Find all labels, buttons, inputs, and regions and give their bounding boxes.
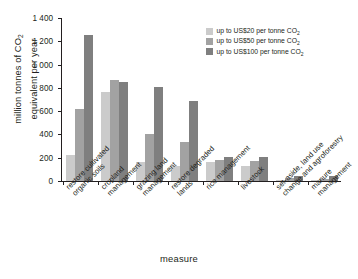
legend-item: up to US$100 per tonne CO2 [206,48,351,57]
bar-group [171,18,198,181]
bar-chart: million tonnes of CO2 equivalent per yea… [0,0,358,279]
y-axis-tick: 800 [58,88,61,89]
legend-item: up to US$50 per tonne CO2 [206,37,351,46]
y-axis-tick: 1 200 [58,41,61,42]
y-axis-tick: 1 000 [58,65,61,66]
y-axis-tick-label: 1 000 [33,60,54,69]
x-axis-title: measure [0,253,358,264]
y-axis-tick-label: 200 [39,153,53,162]
y-axis-tick-label: 0 [48,177,53,186]
y-axis-tick: 200 [58,158,61,159]
y-axis-title-subscript: 2 [17,34,24,38]
legend-swatch [206,38,213,45]
y-axis-tick-label: 400 [39,130,53,139]
legend-label: up to US$50 per tonne CO2 [217,37,300,47]
y-axis-tick-label: 1 200 [33,37,54,46]
y-axis-line [61,18,62,182]
bar-group [136,18,163,181]
y-axis-tick: 600 [58,111,61,112]
y-axis-tick-label: 600 [39,107,53,116]
y-axis-tick: 1 400 [58,18,61,19]
y-axis-tick-label: 1 400 [33,14,54,23]
y-axis-tick-label: 800 [39,83,53,92]
y-axis-title: million tonnes of CO2 equivalent per yea… [9,4,43,154]
bar-group [66,18,93,181]
y-axis-tick: 0 [58,181,61,182]
legend-label: up to US$100 per tonne CO2 [217,48,304,58]
legend-swatch [206,28,213,35]
legend-label: up to US$20 per tonne CO2 [217,27,300,37]
legend-item: up to US$20 per tonne CO2 [206,27,351,36]
legend-swatch [206,48,213,55]
y-axis-tick: 400 [58,134,61,135]
y-axis-title-line2: equivalent per year [29,39,39,120]
y-axis-title-line1: million tonnes of CO [13,38,23,124]
legend: up to US$20 per tonne CO2up to US$50 per… [206,27,351,58]
x-axis-category-labels: restore cultivatedorganic soilscroplandm… [61,183,351,258]
